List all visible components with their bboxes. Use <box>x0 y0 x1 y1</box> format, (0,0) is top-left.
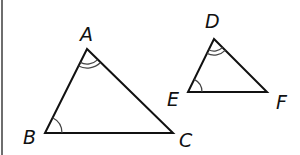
triangles-svg: A B C D E F <box>0 0 300 155</box>
diagram-canvas: A B C D E F <box>0 0 300 155</box>
vertex-label-f: F <box>276 91 288 113</box>
vertex-label-c: C <box>179 129 193 151</box>
angle-mark-d-inner <box>209 47 223 51</box>
vertex-label-e: E <box>167 88 179 110</box>
vertex-label-a: A <box>78 23 93 45</box>
vertex-label-b: B <box>23 126 36 148</box>
angle-mark-a-inner <box>80 60 97 64</box>
angle-mark-b <box>53 118 62 133</box>
angle-mark-e <box>194 79 202 92</box>
triangle-abc <box>45 49 173 133</box>
vertex-label-d: D <box>205 10 220 32</box>
